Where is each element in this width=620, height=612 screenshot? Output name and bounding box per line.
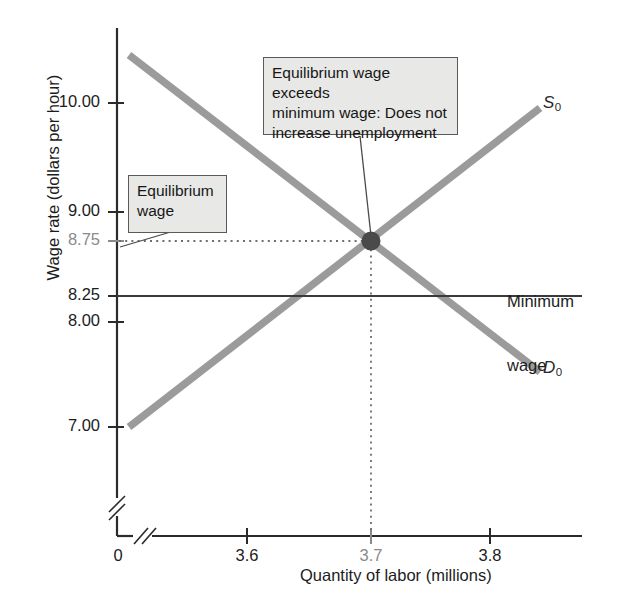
y-axis-break-mark <box>109 496 125 512</box>
supply-curve-label-letter: S <box>543 93 554 112</box>
y-tick-label-7: 7.00 <box>30 416 100 435</box>
equilibrium-wage-callout-line2: wage <box>137 201 218 221</box>
x-axis-break-mark <box>134 528 148 544</box>
y-tick-label-9: 9.00 <box>30 201 100 220</box>
equilibrium-exceeds-minimum-callout: Equilibrium wage exceeds minimum wage: D… <box>263 57 458 135</box>
equilibrium-wage-callout: Equilibrium wage <box>128 175 227 233</box>
y-tick-label-8: 8.00 <box>30 311 100 330</box>
note-callout-line1: Equilibrium wage exceeds <box>272 63 449 103</box>
minimum-wage-label-line1: Minimum <box>507 291 574 312</box>
note-callout-line3: increase unemployment <box>272 123 449 143</box>
supply-curve-label: S0 <box>543 93 561 113</box>
x-tick-label-3-8: 3.8 <box>460 546 520 565</box>
minimum-wage-label-line2: wage <box>507 355 574 376</box>
economics-supply-demand-figure: Wage rate (dollars per hour) Quantity of… <box>0 0 620 612</box>
x-tick-label-0: 0 <box>88 546 148 565</box>
supply-curve-label-subscript: 0 <box>555 101 561 113</box>
equilibrium-wage-callout-line1: Equilibrium <box>137 181 218 201</box>
equilibrium-wage-leader-line <box>120 231 174 247</box>
x-tick-label-3-7: 3.7 <box>341 546 401 565</box>
note-callout-line2: minimum wage: Does not <box>272 103 449 123</box>
note-callout-leader-line <box>360 136 371 236</box>
minimum-wage-label: Minimum wage <box>507 249 574 418</box>
y-tick-label-8-75: 8.75 <box>30 230 100 249</box>
y-tick-label-10: 10.00 <box>30 92 100 111</box>
y-tick-label-8-25: 8.25 <box>30 285 100 304</box>
x-axis-title: Quantity of labor (millions) <box>300 566 492 585</box>
x-tick-label-3-6: 3.6 <box>217 546 277 565</box>
supply-curve <box>129 108 540 427</box>
